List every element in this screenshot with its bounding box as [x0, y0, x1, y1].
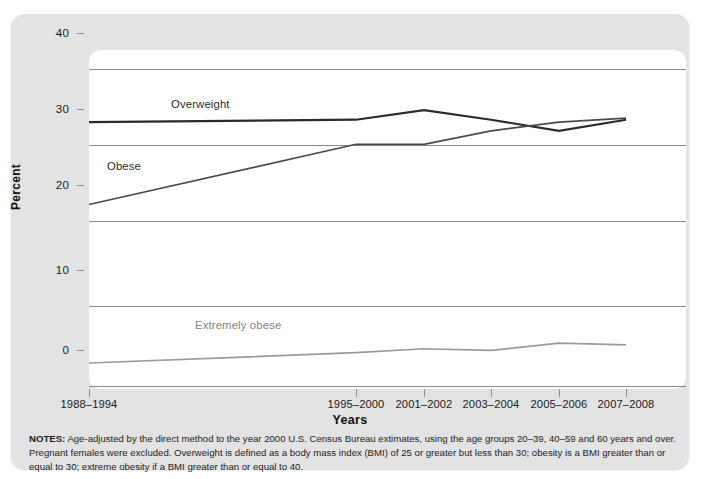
line-extremely-obese [89, 343, 626, 363]
x-tick-mark-5 [626, 389, 627, 397]
y-tick-mark-10 [77, 270, 84, 271]
y-tick-mark-20 [77, 185, 84, 186]
series-label-extremely-obese: Extremely obese [195, 319, 281, 331]
y-tick-label-30: 30 [43, 103, 69, 115]
x-axis-title: Years [11, 413, 689, 427]
x-tick-mark-2 [424, 389, 425, 397]
y-tick-mark-0 [77, 350, 84, 351]
notes-body: Age-adjusted by the direct method to the… [29, 433, 676, 472]
y-tick-mark-30 [77, 109, 84, 110]
x-tick-label-0: 1988–1994 [41, 398, 137, 410]
y-tick-label-40: 40 [43, 27, 69, 39]
y-tick-label-0: 0 [43, 344, 69, 356]
series-label-overweight: Overweight [171, 98, 230, 110]
series-label-obese: Obese [107, 160, 141, 172]
x-tick-mark-3 [491, 389, 492, 397]
y-axis-title: Percent [9, 164, 23, 210]
x-tick-mark-0 [89, 389, 90, 397]
chart-page: Percent 40 30 20 10 0 Overweight Obe [0, 0, 701, 479]
y-tick-label-20: 20 [43, 179, 69, 191]
x-tick-label-5: 2007–2008 [578, 398, 674, 410]
line-obese [89, 118, 626, 204]
notes-heading: NOTES: [29, 433, 65, 444]
line-overweight [89, 110, 626, 131]
y-tick-mark-40 [77, 33, 84, 34]
x-tick-mark-1 [356, 389, 357, 397]
chart-notes: NOTES: Age-adjusted by the direct method… [29, 432, 677, 475]
y-tick-label-10: 10 [43, 264, 69, 276]
x-tick-mark-4 [559, 389, 560, 397]
chart-outer-panel: Percent 40 30 20 10 0 Overweight Obe [11, 14, 689, 469]
